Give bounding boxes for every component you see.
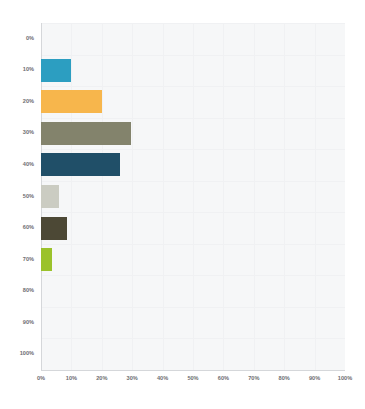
x-axis-tick-label: 70% xyxy=(248,376,259,382)
y-axis-tick-label: 50% xyxy=(0,194,34,200)
bar-row[interactable] xyxy=(41,55,345,87)
y-axis-tick-labels: 0%10%20%30%40%50%60%70%80%90%100% xyxy=(0,23,38,370)
bar[interactable] xyxy=(41,185,59,208)
bar-row[interactable] xyxy=(41,338,345,370)
bar-row[interactable] xyxy=(41,212,345,244)
bar-row[interactable] xyxy=(41,307,345,339)
bar-row[interactable] xyxy=(41,23,345,55)
x-axis-tick-label: 50% xyxy=(187,376,198,382)
bar-row[interactable] xyxy=(41,149,345,181)
x-axis-tick-label: 30% xyxy=(127,376,138,382)
bar-chart: 0%10%20%30%40%50%60%70%80%90%100% 0%10%2… xyxy=(0,0,365,409)
x-axis-tick-label: 80% xyxy=(279,376,290,382)
x-axis-tick-label: 60% xyxy=(218,376,229,382)
x-axis-tick-label: 100% xyxy=(338,376,352,382)
y-axis-tick-label: 10% xyxy=(0,68,34,74)
y-axis-tick-label: 20% xyxy=(0,99,34,105)
bar[interactable] xyxy=(41,59,71,82)
bar[interactable] xyxy=(41,153,120,176)
x-axis-tick-labels: 0%10%20%30%40%50%60%70%80%90%100% xyxy=(41,376,345,390)
x-axis-line xyxy=(41,370,345,371)
bar[interactable] xyxy=(41,122,131,145)
bar-row[interactable] xyxy=(41,118,345,150)
x-axis-tick-label: 0% xyxy=(37,376,45,382)
bar[interactable] xyxy=(41,90,102,113)
y-axis-tick-label: 30% xyxy=(0,131,34,137)
bar-row[interactable] xyxy=(41,275,345,307)
x-axis-tick-label: 40% xyxy=(157,376,168,382)
bar-row[interactable] xyxy=(41,86,345,118)
y-axis-tick-label: 40% xyxy=(0,162,34,168)
bar-row[interactable] xyxy=(41,244,345,276)
x-axis-tick-label: 10% xyxy=(66,376,77,382)
x-axis-tick-label: 20% xyxy=(96,376,107,382)
bar[interactable] xyxy=(41,248,52,271)
y-axis-tick-label: 0% xyxy=(0,36,34,42)
y-axis-tick-label: 60% xyxy=(0,225,34,231)
bar-row[interactable] xyxy=(41,181,345,213)
y-axis-tick-label: 70% xyxy=(0,257,34,263)
y-axis-tick-label: 100% xyxy=(0,351,34,357)
x-axis-tick-label: 90% xyxy=(309,376,320,382)
bar-series xyxy=(41,23,345,370)
y-axis-tick-label: 80% xyxy=(0,288,34,294)
bar[interactable] xyxy=(41,217,67,240)
y-axis-tick-label: 90% xyxy=(0,320,34,326)
